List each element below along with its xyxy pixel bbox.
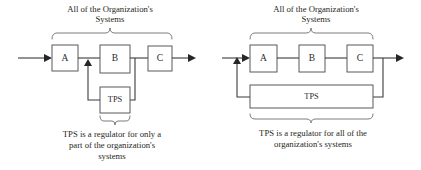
right-panel-box-b-label: B <box>309 53 315 63</box>
left-panel-box-c-label: C <box>157 53 163 63</box>
left-panel-box-b-label: B <box>112 53 118 63</box>
right-panel-input-arrowhead <box>242 54 250 62</box>
left-panel-top-brace <box>52 28 172 39</box>
diagram-canvas: All of the Organization's Systems A B C <box>0 0 421 170</box>
right-panel-box-tps-label: TPS <box>304 92 319 101</box>
right-panel: All of the Organization's Systems A B C <box>222 4 404 149</box>
left-panel-feedback-down <box>130 58 135 100</box>
right-panel-bottom-brace <box>250 114 373 123</box>
left-panel-box-a-label: A <box>62 53 69 63</box>
right-panel-feedback-up <box>237 64 250 97</box>
left-panel-heading-line1: All of the Organization's <box>67 4 153 14</box>
left-panel-input-arrowhead <box>44 54 52 62</box>
left-panel-feedback-arrowhead <box>84 59 92 66</box>
right-panel-top-brace <box>250 28 373 39</box>
right-panel-box-c-label: C <box>357 53 363 63</box>
right-panel-caption-line2: organization's systems <box>274 139 353 149</box>
left-panel-caption-line2: part of the organization's <box>69 140 156 150</box>
right-panel-box-a-label: A <box>260 53 267 63</box>
right-panel-heading-line2: Systems <box>302 14 332 24</box>
left-panel-caption-line3: systems <box>98 151 126 161</box>
right-panel-caption-line1: TPS is a regulator for all of the <box>259 128 367 138</box>
left-panel-bottom-brace <box>100 116 130 125</box>
left-panel-caption-line1: TPS is a regulator for only a <box>63 129 162 139</box>
right-panel-output-arrowhead <box>396 54 404 62</box>
right-panel-heading-line1: All of the Organization's <box>273 4 359 14</box>
right-panel-feedback-down <box>373 58 383 97</box>
left-panel-output-arrowhead <box>188 54 196 62</box>
left-panel-box-tps-label: TPS <box>108 95 123 104</box>
left-panel: All of the Organization's Systems A B C <box>18 4 196 161</box>
figure-root: All of the Organization's Systems A B C <box>0 0 421 170</box>
left-panel-feedback-up <box>88 66 100 100</box>
left-panel-heading-line2: Systems <box>96 14 126 24</box>
